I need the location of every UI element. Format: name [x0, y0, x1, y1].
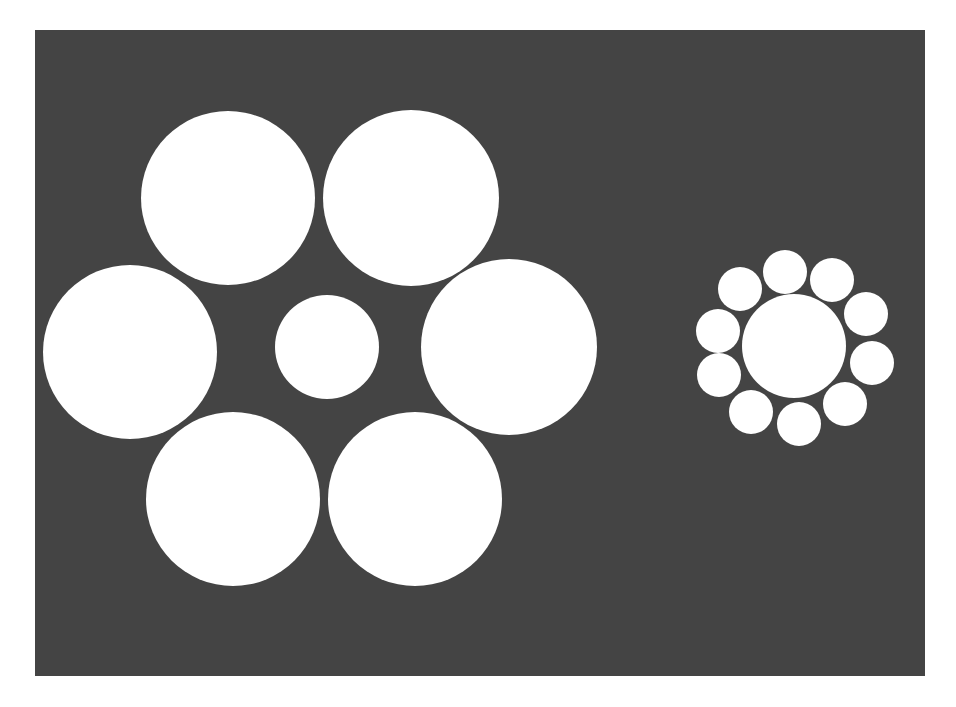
center-circle	[742, 294, 846, 398]
surrounding-circle	[696, 309, 740, 353]
surrounding-circle	[844, 292, 888, 336]
center-circle	[275, 295, 379, 399]
surrounding-circle	[718, 267, 762, 311]
surrounding-circle	[763, 250, 807, 294]
surrounding-circle	[729, 390, 773, 434]
surrounding-circle	[146, 412, 320, 586]
surrounding-circle	[328, 412, 502, 586]
ebbinghaus-illusion-figure	[0, 0, 956, 707]
surrounding-circle	[823, 382, 867, 426]
surrounding-circle	[810, 258, 854, 302]
surrounding-circle	[850, 341, 894, 385]
surrounding-circle	[141, 111, 315, 285]
surrounding-circle	[421, 259, 597, 435]
surrounding-circle	[323, 110, 499, 286]
surrounding-circle	[43, 265, 217, 439]
surrounding-circle	[777, 402, 821, 446]
surrounding-circle	[697, 353, 741, 397]
